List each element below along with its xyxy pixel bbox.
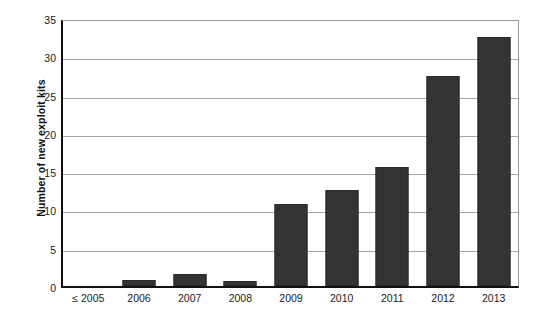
bar-slot [215, 20, 266, 286]
y-axis-tick-label: 25 [30, 91, 56, 103]
x-axis-tick-label: 2010 [330, 292, 353, 304]
y-axis-tick-label: 15 [30, 167, 56, 179]
bar[interactable] [224, 281, 257, 286]
y-axis-tick-label: 5 [30, 244, 56, 256]
y-axis-title: Number of new exploit kits [35, 33, 47, 263]
bar-slot [468, 20, 519, 286]
x-axis-tick-label: 2007 [178, 292, 201, 304]
x-axis-tick-label: 2012 [431, 292, 454, 304]
bar[interactable] [477, 37, 510, 286]
bar-slot [164, 20, 215, 286]
x-axis-tick-label: 2013 [482, 292, 505, 304]
bar-slot [367, 20, 418, 286]
bar-slot [316, 20, 367, 286]
x-axis-tick-label: 2009 [279, 292, 302, 304]
x-axis-tick-label: 2006 [127, 292, 150, 304]
bar[interactable] [376, 167, 409, 286]
bar[interactable] [426, 76, 459, 286]
bar[interactable] [274, 204, 307, 286]
bar[interactable] [325, 190, 358, 286]
y-axis-tick-label: 35 [30, 14, 56, 26]
bar[interactable] [173, 274, 206, 286]
y-axis-tick-label: 0 [30, 282, 56, 294]
bar[interactable] [122, 280, 155, 286]
y-axis-tick-label: 20 [30, 129, 56, 141]
bars-layer [63, 20, 519, 286]
x-axis-tick-label: 2008 [229, 292, 252, 304]
bar-slot [63, 20, 114, 286]
bar-slot [418, 20, 469, 286]
x-axis-tick-label: 2011 [381, 292, 404, 304]
bar-chart: Number of new exploit kits 0510152025303… [0, 0, 534, 324]
x-axis-tick-label: ≤ 2005 [72, 292, 104, 304]
x-axis-tick-labels: ≤ 200520062007200820092010201120122013 [63, 292, 519, 314]
y-axis-tick-label: 10 [30, 205, 56, 217]
bar-slot [266, 20, 317, 286]
bar-slot [114, 20, 165, 286]
y-axis-tick-label: 30 [30, 52, 56, 64]
